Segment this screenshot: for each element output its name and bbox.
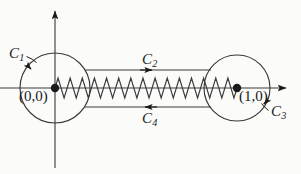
label-c4-base: C	[142, 110, 152, 126]
label-c3-base: C	[271, 103, 281, 119]
label-c2-sub: 2	[152, 58, 157, 69]
label-c1-sub: 1	[19, 52, 24, 63]
label-c2: C2	[142, 52, 157, 69]
label-c2-base: C	[142, 51, 152, 67]
c1-direction-arrow	[29, 67, 32, 70]
label-point-origin: (0,0)	[19, 89, 48, 104]
contour-diagram: C1 C2 C3 C4 (0,0) (1,0)	[0, 0, 301, 174]
label-c4-sub: 4	[152, 117, 157, 128]
label-c1: C1	[9, 46, 24, 63]
diagram-canvas	[0, 0, 301, 174]
label-c3: C3	[271, 104, 286, 121]
label-c1-base: C	[9, 45, 19, 61]
branch-point-origin	[51, 84, 59, 92]
label-c3-sub: 3	[281, 110, 286, 121]
label-point-unit: (1,0)	[239, 89, 268, 104]
label-c4: C4	[142, 111, 157, 128]
